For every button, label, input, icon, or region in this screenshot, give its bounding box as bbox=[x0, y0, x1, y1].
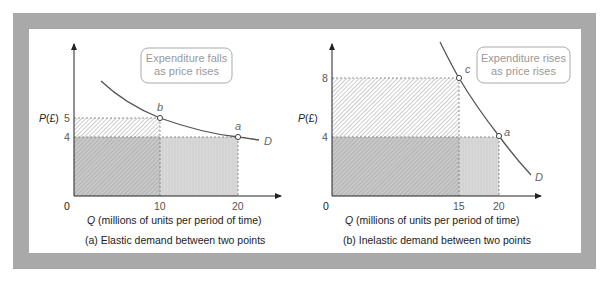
caption-a: (a) Elastic demand between two points bbox=[85, 234, 265, 246]
annotation-line-2: as price rises bbox=[491, 65, 556, 77]
caption-b: (b) Inelastic demand between two points bbox=[343, 234, 531, 246]
point-a bbox=[496, 133, 501, 138]
curve-label: D bbox=[264, 135, 272, 147]
annotation-line-1: Expenditure falls bbox=[146, 52, 228, 64]
x-tick-20: 20 bbox=[493, 200, 505, 212]
annotation-line-1: Expenditure rises bbox=[481, 52, 566, 64]
point-label-c: c bbox=[465, 63, 471, 75]
y-axis-label: P(£) bbox=[298, 112, 318, 124]
point-label-a: a bbox=[504, 126, 510, 138]
point-c bbox=[456, 75, 461, 80]
figure-svg: b a D 5 4 P(£) 0 10 20 Q (millions of un… bbox=[0, 0, 613, 288]
point-b bbox=[157, 115, 162, 120]
y-tick-4: 4 bbox=[64, 131, 70, 143]
annotation-line-2: as price rises bbox=[154, 65, 219, 77]
y-tick-4: 4 bbox=[322, 131, 328, 143]
y-axis-label: P(£) bbox=[39, 112, 59, 124]
y-tick-8: 8 bbox=[322, 72, 328, 84]
origin-label: 0 bbox=[64, 200, 70, 212]
x-tick-15: 15 bbox=[453, 200, 465, 212]
x-tick-10: 10 bbox=[154, 200, 166, 212]
curve-label: D bbox=[535, 171, 543, 183]
expenditure-rect-b bbox=[74, 118, 160, 196]
expenditure-rect-c bbox=[332, 78, 459, 196]
x-axis-label: Q (millions of units per period of time) bbox=[87, 214, 262, 226]
x-axis-label: Q (millions of units per period of time) bbox=[345, 214, 520, 226]
y-tick-5: 5 bbox=[64, 112, 70, 124]
chart-elastic: b a D 5 4 P(£) 0 10 20 Q (millions of un… bbox=[39, 44, 281, 246]
point-label-a: a bbox=[235, 120, 241, 132]
point-a bbox=[235, 134, 240, 139]
x-tick-20: 20 bbox=[232, 200, 244, 212]
chart-inelastic: c a D 8 4 P(£) 0 15 20 Q (millions of un… bbox=[298, 42, 570, 246]
origin-label: 0 bbox=[323, 200, 329, 212]
point-label-b: b bbox=[157, 101, 163, 113]
